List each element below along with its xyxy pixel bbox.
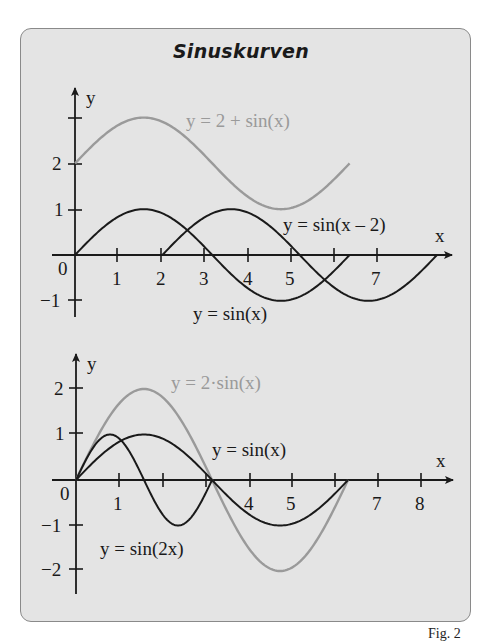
bottom-x-tick-1: 1 <box>113 493 123 514</box>
top-y-tick-minus-1: −1 <box>40 290 60 311</box>
top-x-tick-7: 7 <box>371 268 381 289</box>
top-y-tick-1: 1 <box>54 199 64 220</box>
label-sin-x-bottom: y = sin(x) <box>212 439 286 461</box>
bottom-y-tick-2: 2 <box>54 378 64 399</box>
label-2-plus-sin-x: y = 2 + sin(x) <box>186 110 290 132</box>
bottom-x-tick-7: 7 <box>372 493 382 514</box>
curve-2-plus-sin-x <box>75 118 350 210</box>
bottom-y-tick-minus-1: −1 <box>41 515 61 536</box>
bottom-x-axis-label: x <box>436 450 446 471</box>
top-x-tick-3: 3 <box>199 268 209 289</box>
label-2-sin-x: y = 2·sin(x) <box>171 372 261 394</box>
top-x-tick-4: 4 <box>243 268 253 289</box>
bottom-y-axis-label: y <box>87 353 97 374</box>
bottom-y-tick-1: 1 <box>55 423 65 444</box>
top-x-tick-5: 5 <box>285 268 295 289</box>
label-sin-x-minus-2: y = sin(x – 2) <box>283 214 386 236</box>
bottom-x-tick-5: 5 <box>286 493 296 514</box>
top-x-tick-2: 2 <box>156 268 166 289</box>
bottom-origin-label: 0 <box>60 483 70 504</box>
bottom-y-tick-minus-2: −2 <box>41 559 61 580</box>
label-sin-2x: y = sin(2x) <box>100 538 184 560</box>
bottom-x-tick-4: 4 <box>244 493 254 514</box>
top-origin-label: 0 <box>58 258 68 279</box>
top-chart: y x 0 1 2 3 4 5 7 2 1 −1 y = 2 + sin(x) … <box>40 87 452 325</box>
bottom-x-tick-8: 8 <box>415 493 425 514</box>
label-sin-x-top: y = sin(x) <box>193 303 267 325</box>
bottom-chart: y x 0 1 4 5 7 8 2 1 −1 −2 y = 2·sin(x) y… <box>41 353 453 594</box>
figure-label: Fig. 2 <box>428 626 461 642</box>
top-y-axis-label: y <box>86 87 96 108</box>
top-x-tick-1: 1 <box>112 268 122 289</box>
top-x-axis-label: x <box>435 225 445 246</box>
top-y-tick-2: 2 <box>52 153 62 174</box>
